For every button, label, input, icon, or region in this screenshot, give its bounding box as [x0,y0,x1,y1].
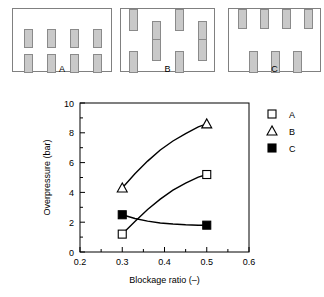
plot-border [80,103,249,252]
data-series-layer [117,119,212,238]
obstacle-block [260,9,269,29]
series-line [122,215,207,225]
legend-label: C [289,144,296,154]
configuration-c-label: C [228,64,321,74]
obstacle-block [70,29,79,48]
obstacle-block [24,29,33,48]
legend-marker [268,144,276,152]
series-b [117,119,212,192]
configuration-c: C [228,8,321,72]
series-line [122,124,207,188]
y-axis-tick-labels: 0246810 [64,99,74,258]
y-tick-label: 8 [69,128,74,138]
configuration-a: A [12,8,112,72]
series-a [118,171,211,239]
overpressure-chart: 0.20.30.40.50.6 0246810 Blockage ratio (… [0,84,324,297]
obstacle-block [282,9,291,29]
obstacle-block [93,29,102,48]
obstacle-block [152,39,161,61]
obstacle-block [198,39,207,61]
y-tick-label: 0 [69,248,74,258]
configuration-b-label: B [120,64,215,74]
configuration-diagrams: A B C [0,0,324,80]
plot-frame [80,103,249,252]
y-tick-label: 2 [69,218,74,228]
obstacle-block [304,9,313,29]
obstacle-block [175,9,184,31]
chart-svg: 0.20.30.40.50.6 0246810 Blockage ratio (… [0,84,324,297]
y-tick-label: 6 [69,158,74,168]
y-tick-label: 4 [69,188,74,198]
data-point [203,221,211,229]
y-tick-label: 10 [64,99,74,109]
x-axis-ticks [80,247,249,252]
configuration-b: B [120,8,215,72]
x-tick-label: 0.3 [116,257,129,267]
configuration-a-box [12,8,112,72]
figure-root: A B C 0.20.30.40.50.6 0246810 Blockage r… [0,0,324,297]
x-tick-label: 0.4 [158,257,171,267]
legend-item-c: C [268,144,296,154]
x-tick-label: 0.2 [74,257,87,267]
data-point [118,230,126,238]
data-point [203,171,211,179]
legend-item-a: A [268,110,295,120]
y-axis-ticks [80,103,85,252]
series-c [118,211,211,229]
configuration-b-box [120,8,215,72]
legend-marker [268,110,276,118]
legend-label: A [289,110,295,120]
legend-label: B [289,127,295,137]
x-tick-label: 0.5 [200,257,213,267]
legend-item-b: B [267,126,295,137]
legend-marker [267,126,277,135]
x-axis-label: Blockage ratio (–) [129,275,200,285]
y-axis-label: Overpressure (bar) [42,139,52,215]
obstacle-block [47,29,56,48]
configuration-c-box [228,8,321,72]
configuration-a-label: A [12,64,112,74]
data-point [202,119,212,128]
x-tick-label: 0.6 [243,257,256,267]
x-axis-tick-labels: 0.20.30.40.50.6 [74,257,256,267]
obstacle-block [238,9,247,29]
data-point [118,211,126,219]
chart-legend: ABC [267,110,296,154]
obstacle-block [129,9,138,31]
